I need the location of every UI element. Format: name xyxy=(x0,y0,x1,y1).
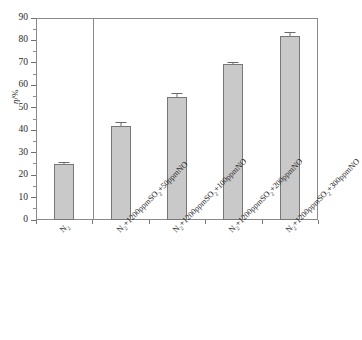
bar-group xyxy=(205,18,261,220)
x-tick-mark xyxy=(36,220,37,224)
bar xyxy=(111,126,131,220)
y-tick-label: 70 xyxy=(19,56,29,69)
bar xyxy=(280,36,300,220)
x-tick-mark xyxy=(149,220,150,224)
y-tick-label: 90 xyxy=(19,11,29,24)
y-tick-label: 0 xyxy=(23,213,28,226)
error-bar-stem xyxy=(233,62,234,64)
error-bar xyxy=(228,62,239,64)
bar xyxy=(223,64,243,220)
x-tick-mark xyxy=(262,220,263,224)
y-tick-label: 30 xyxy=(19,146,29,159)
error-bar-stem xyxy=(120,122,121,125)
y-tick-label: 20 xyxy=(19,168,29,181)
error-bar-stem xyxy=(289,32,290,36)
y-axis-unit: /% xyxy=(10,90,20,100)
y-tick-label: 10 xyxy=(19,191,29,204)
error-bar xyxy=(115,122,126,125)
y-axis-title: η/% xyxy=(10,90,20,104)
error-bar-stem xyxy=(176,93,177,96)
x-tick-mark xyxy=(318,220,319,224)
y-tick-label: 40 xyxy=(19,123,29,136)
error-bar-stem xyxy=(64,162,65,164)
y-axis-symbol: η xyxy=(10,100,20,104)
bar-group xyxy=(36,18,92,220)
bar xyxy=(167,97,187,220)
x-tick-mark xyxy=(92,220,93,224)
bar-group xyxy=(92,18,148,220)
bar-group xyxy=(149,18,205,220)
bar-group xyxy=(262,18,318,220)
error-bar xyxy=(171,93,182,96)
x-tick-mark xyxy=(205,220,206,224)
x-axis-label: N2 xyxy=(58,222,72,236)
error-bar xyxy=(284,32,295,36)
bar xyxy=(54,164,74,220)
y-tick-label: 80 xyxy=(19,33,29,46)
error-bar xyxy=(59,162,70,164)
bars-layer xyxy=(36,18,318,220)
